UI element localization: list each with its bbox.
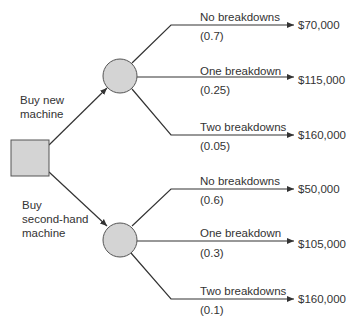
option-label-line: Buy (22, 198, 89, 212)
option-label-line: machine (20, 107, 64, 121)
outcome-event: No breakdowns (200, 10, 280, 24)
decision-node-square (11, 140, 49, 176)
outcome-event: One breakdown (200, 64, 281, 78)
outcome-value: $105,000 (298, 237, 346, 251)
option-label-line: machine (22, 226, 89, 240)
outcome-value: $115,000 (298, 73, 345, 87)
outcome-event: No breakdowns (200, 174, 280, 188)
outcome-value: $50,000 (298, 182, 340, 196)
option-label-buy-new: Buy new machine (20, 93, 64, 121)
outcome-probability: (0.7) (200, 29, 224, 43)
outcome-probability: (0.1) (200, 303, 224, 317)
outcome-probability: (0.3) (200, 246, 224, 260)
outcome-probability: (0.6) (200, 193, 224, 207)
outcome-value: $70,000 (298, 18, 340, 32)
option-label-line: Buy new (20, 93, 64, 107)
option-label-line: second-hand (22, 212, 89, 226)
decision-tree-diagram (0, 0, 351, 323)
outcome-event: Two breakdowns (200, 284, 286, 298)
chance-node-second-hand (103, 223, 137, 257)
chance-node-new (103, 59, 137, 93)
outcome-value: $160,000 (298, 292, 346, 306)
outcome-value: $160,000 (298, 128, 346, 142)
outcome-probability: (0.25) (200, 83, 230, 97)
outcome-event: Two breakdowns (200, 120, 286, 134)
outcome-probability: (0.05) (200, 139, 230, 153)
option-label-buy-second-hand: Buy second-hand machine (22, 198, 89, 240)
outcome-event: One breakdown (200, 226, 281, 240)
